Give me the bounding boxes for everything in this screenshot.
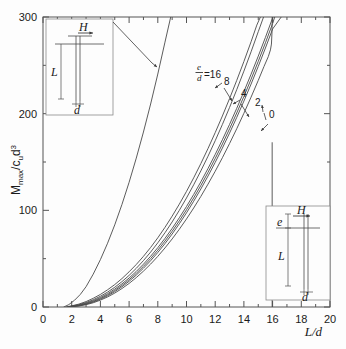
series-label-8: 8 [224,76,230,87]
inset-label-L-bottom: L [277,249,285,263]
x-tick-label: 12 [209,313,221,325]
y-tick-label: 300 [19,11,37,23]
legend-title-denominator: d [197,73,202,83]
y-tick-label: 100 [19,204,37,216]
x-tick-label: 6 [126,313,132,325]
series-label-2: 2 [255,97,261,108]
series-label-ed16: =16 [204,69,221,80]
x-tick-label: 20 [324,313,336,325]
x-tick-label: 10 [180,313,192,325]
inset-label-d-bottom: d [302,290,309,304]
inset-label-H-top: H [78,20,89,34]
chart-figure: 02468101214161820 0100200300 L/d Mmax/cu… [0,0,346,349]
inset-label-L-top: L [50,65,58,79]
series-label-4: 4 [241,88,247,99]
inset-label-d-top: d [74,103,81,117]
x-tick-label: 0 [40,313,46,325]
y-axis-title: Mmax/cud3 [9,144,25,195]
legend-title-numerator: e [197,62,201,72]
y-title-d: d [9,149,23,156]
y-title-sup-3: 3 [9,144,18,149]
x-tick-label: 14 [238,313,250,325]
y-tick-label: 200 [19,108,37,120]
free-head-pile-inset: H e L d [266,203,330,304]
moment-capacity-chart: 02468101214161820 0100200300 L/d Mmax/cu… [0,0,346,349]
svg-text:Mmax/cud3: Mmax/cud3 [9,144,25,195]
y-title-M: M [9,185,23,195]
inset-label-e: e [277,215,283,229]
x-tick-label: 16 [266,313,278,325]
inset-label-H-bottom: H [296,203,307,217]
x-axis-title: L/d [304,324,323,339]
x-tick-label: 8 [155,313,161,325]
y-title-sub-max: max [16,170,25,185]
y-tick-label: 0 [31,301,37,313]
series-label-0: 0 [269,109,275,120]
inset-border-bottom-right [266,206,330,300]
x-tick-label: 4 [97,313,103,325]
x-tick-label: 2 [69,313,75,325]
